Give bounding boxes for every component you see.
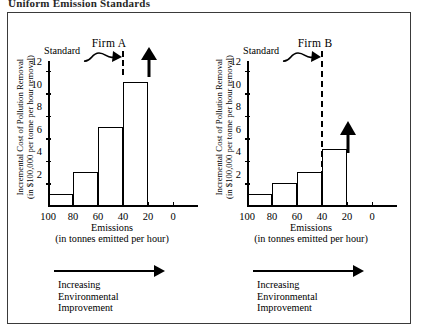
y-tick [245, 183, 250, 184]
y-axis-label-line2: (in $100,000 per tonne per hour removal) [225, 43, 235, 211]
y-tick [245, 71, 250, 72]
x-axis-label-line2: (in tonnes emitted per hour) [247, 233, 375, 244]
caption-line-1: Increasing [58, 279, 184, 291]
x-tick-label: 40 [317, 212, 328, 222]
chart-panel-firm-b: Firm B Incremental Cost of Pollution Rem… [207, 13, 409, 325]
y-tick [46, 93, 51, 94]
x-tick-label: 60 [292, 212, 303, 222]
y-tick-label: 10 [231, 80, 242, 90]
y-tick-label: 8 [236, 102, 241, 112]
caption-text: Increasing Environmental Improvement [253, 277, 383, 314]
y-tick [46, 161, 51, 162]
y-tick [245, 161, 250, 162]
x-axis-label-firm-a: Emissions (in tonnes emitted per hour) [48, 222, 176, 245]
bar-40-20 [123, 82, 148, 206]
x-tick [148, 202, 149, 207]
plot-area-firm-b: 2 4 6 8 10 12 100 80 60 40 20 0 [247, 61, 375, 207]
y-tick-label: 2 [236, 170, 241, 180]
x-tick-label: 20 [342, 212, 353, 222]
caption-line-2: Environmental [257, 291, 383, 303]
y-axis-label-firm-a: Incremental Cost of Pollution Removal (i… [16, 43, 36, 211]
bar-80-60 [73, 172, 98, 206]
y-axis-label-line2: (in $100,000 per tonne per hour removal) [26, 43, 36, 211]
x-tick [372, 202, 373, 207]
bar-80-60 [272, 183, 297, 206]
caption-text: Increasing Environmental Improvement [54, 277, 184, 314]
x-axis-label-line2: (in tonnes emitted per hour) [48, 233, 176, 244]
x-tick-label: 100 [40, 212, 56, 222]
y-tick-label: 6 [236, 125, 241, 135]
x-axis-label-line1: Emissions [247, 222, 375, 233]
standard-label: Standard [44, 45, 80, 56]
y-tick-label: 6 [37, 125, 42, 135]
y-tick-label: 4 [236, 147, 241, 157]
chart-panel-firm-a: Firm A Incremental Cost of Pollution Rem… [8, 13, 210, 325]
x-tick-label: 100 [239, 212, 255, 222]
arrow-head [154, 265, 165, 277]
bar-100-80 [48, 194, 73, 205]
x-tick-label: 0 [369, 212, 374, 222]
x-axis-label-firm-b: Emissions (in tonnes emitted per hour) [247, 222, 375, 245]
caption-line-2: Environmental [58, 291, 184, 303]
bar-60-40 [297, 172, 322, 206]
y-tick-label: 10 [32, 80, 43, 90]
standard-label: Standard [243, 45, 279, 56]
caption-line-3: Improvement [58, 302, 184, 314]
bar-40-20 [322, 149, 347, 205]
y-tick-label: 12 [32, 57, 43, 67]
figure-frame: Firm A Incremental Cost of Pollution Rem… [7, 12, 411, 324]
improvement-up-arrow [339, 121, 357, 153]
y-tick [245, 138, 250, 139]
caption-firm-a: Increasing Environmental Improvement [54, 265, 184, 314]
plot-area-firm-a: 2 4 6 8 10 12 100 80 60 40 20 0 [48, 61, 176, 207]
y-tick-label: 2 [37, 170, 42, 180]
x-tick [347, 202, 348, 207]
y-tick [245, 116, 250, 117]
y-tick [46, 183, 51, 184]
caption-firm-b: Increasing Environmental Improvement [253, 265, 383, 314]
improvement-arrow-right [54, 265, 184, 277]
y-axis-line [247, 61, 249, 207]
y-axis-label-firm-b: Incremental Cost of Pollution Removal (i… [215, 43, 235, 211]
improvement-arrow-right [253, 265, 383, 277]
arrow-shaft [54, 270, 158, 272]
y-axis-line [48, 61, 50, 207]
y-tick [46, 116, 51, 117]
standard-pointer-arrow [82, 47, 128, 73]
x-tick-label: 0 [170, 212, 175, 222]
arrow-head [353, 265, 364, 277]
y-tick [46, 71, 51, 72]
x-tick [173, 202, 174, 207]
caption-line-1: Increasing [257, 279, 383, 291]
x-tick-label: 60 [93, 212, 104, 222]
y-tick [245, 93, 250, 94]
y-tick-label: 12 [231, 57, 242, 67]
document-title: Uniform Emission Standards [8, 0, 150, 9]
improvement-up-arrow [140, 47, 158, 77]
caption-line-3: Improvement [257, 302, 383, 314]
standard-pointer-arrow [281, 47, 327, 73]
y-tick-label: 4 [37, 147, 42, 157]
standard-dashed-line [321, 51, 323, 207]
y-tick-label: 8 [37, 102, 42, 112]
x-tick-label: 80 [68, 212, 79, 222]
bar-100-80 [247, 194, 272, 205]
y-tick [46, 138, 51, 139]
arrow-shaft [253, 270, 357, 272]
x-tick-label: 20 [143, 212, 154, 222]
x-tick-label: 80 [267, 212, 278, 222]
bar-60-40 [98, 127, 123, 206]
x-tick-label: 40 [118, 212, 129, 222]
x-axis-label-line1: Emissions [48, 222, 176, 233]
